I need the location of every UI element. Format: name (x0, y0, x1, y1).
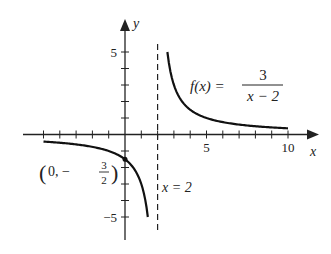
function-label-numerator: 3 (259, 67, 267, 83)
x-axis-arrow-icon (307, 130, 319, 140)
chart: 5105−5yxx = 2(0, −32)f(x) =3x − 2 (0, 0, 331, 254)
point-label-paren-open: ( (39, 160, 46, 185)
asymptote-label: x = 2 (161, 180, 192, 195)
point-label-text: 0, − (48, 164, 70, 179)
x-tick-label: 5 (203, 140, 210, 155)
point-label-denominator: 2 (101, 174, 107, 186)
y-tick-label: −5 (103, 210, 117, 225)
point-label-paren-close: ) (111, 160, 118, 185)
left-branch (44, 142, 148, 217)
y-tick-label: 5 (111, 45, 118, 60)
intercept-point (123, 157, 128, 162)
y-axis-arrow-icon (120, 19, 130, 31)
function-label-lhs: f(x) = (190, 78, 225, 95)
point-label-numerator: 3 (101, 159, 107, 171)
y-axis-label: y (131, 16, 140, 31)
x-tick-label: 10 (282, 140, 295, 155)
x-axis-label: x (309, 144, 317, 159)
function-label-denominator: x − 2 (246, 88, 279, 104)
